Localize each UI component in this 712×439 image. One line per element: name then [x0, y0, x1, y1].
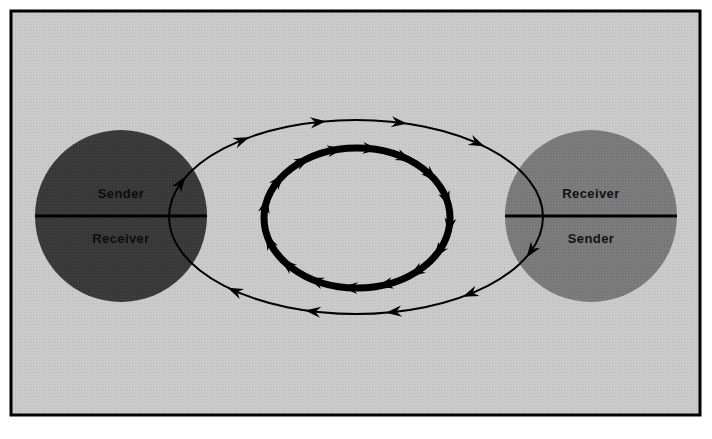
- left-party-top-label: Sender: [98, 186, 144, 201]
- communication-loop-diagram: Sender Receiver Receiver Sender: [0, 0, 712, 439]
- diagram-canvas: Sender Receiver Receiver Sender: [0, 0, 712, 439]
- left-party-bottom-label: Receiver: [92, 231, 149, 246]
- right-party-top-label: Receiver: [562, 186, 619, 201]
- right-party-bottom-label: Sender: [568, 231, 614, 246]
